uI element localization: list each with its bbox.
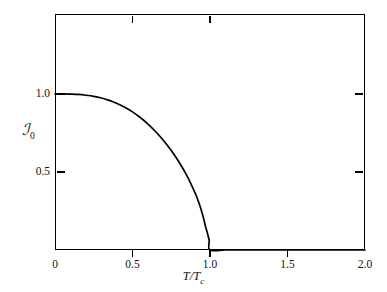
y-axis-title-subscript: 0 (30, 131, 35, 141)
x-tick-mark-top (209, 16, 210, 23)
y-tick-label: 1.0 (19, 88, 50, 100)
x-tick-mark (132, 250, 133, 257)
figure-container: 00.51.01.52.00.51.0 ℐ0 T/Tc (0, 0, 387, 292)
x-tick-label: 1.0 (203, 259, 217, 271)
x-tick-mark (287, 250, 288, 257)
x-tick-label: 0.5 (125, 259, 139, 271)
x-tick-mark (209, 250, 210, 257)
y-tick-mark-right (355, 93, 363, 94)
x-tick-label: 0 (52, 259, 58, 271)
y-axis-title-symbol: ℐ (22, 120, 30, 139)
y-tick-mark-left (57, 93, 65, 94)
x-axis-title: T/Tc (0, 270, 387, 286)
x-tick-label: 2.0 (358, 259, 372, 271)
y-tick-mark-right (355, 171, 363, 172)
x-axis-title-symbol: T/T (183, 269, 200, 283)
bcs-gap-curve (55, 94, 365, 251)
x-tick-mark-top (132, 16, 133, 23)
x-tick-label: 1.5 (280, 259, 294, 271)
data-curve-layer (0, 0, 387, 292)
y-tick-label: 0.5 (19, 166, 50, 178)
y-axis-title: ℐ0 (22, 122, 35, 142)
y-tick-mark-left (57, 171, 65, 172)
x-axis-title-subscript: c (200, 276, 204, 286)
